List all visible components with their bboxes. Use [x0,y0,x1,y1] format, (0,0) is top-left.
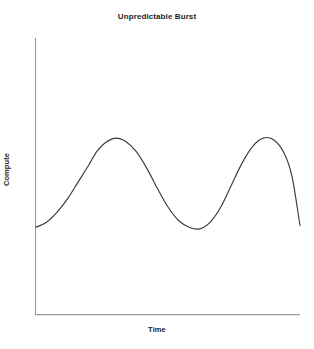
x-axis-label: Time [0,324,314,335]
y-axis-label: Compute [1,140,12,200]
data-series-line-compute [36,138,300,230]
chart-figure: Unpredictable Burst Compute Time [0,0,314,349]
plot-area [0,0,314,349]
